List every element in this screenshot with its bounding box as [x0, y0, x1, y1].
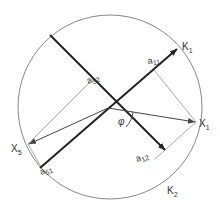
- label-x1: X1: [199, 118, 210, 131]
- vector-x5: [29, 108, 108, 144]
- diagram-canvas: K1 K2 X1 X5 a11 a12 a52 a51 φ: [0, 0, 220, 210]
- projection-x1-k1: [154, 70, 196, 122]
- label-a51: a51: [38, 163, 54, 178]
- label-a11: a11: [147, 54, 161, 67]
- axis-k2: [50, 35, 165, 150]
- label-phi: φ: [118, 116, 125, 127]
- projection-x5-k2: [28, 82, 90, 144]
- label-a12: a12: [134, 150, 150, 165]
- projection-x5-k1: [28, 144, 41, 167]
- label-k2: K2: [167, 185, 178, 198]
- label-x5: X5: [11, 143, 22, 156]
